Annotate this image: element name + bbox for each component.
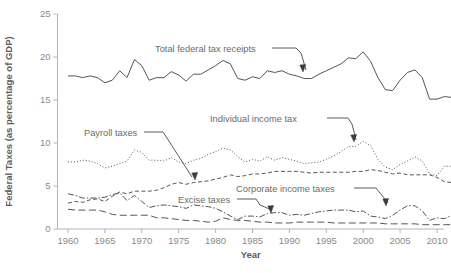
x-tick-label: 1980: [205, 235, 226, 246]
annotation-label: Total federal tax receipts: [155, 44, 256, 54]
x-tick-label: 1975: [168, 235, 189, 246]
annotation-leader: [354, 188, 388, 203]
chart-container: 0510152025196019651970197519801985199019…: [0, 0, 451, 273]
x-tick-label: 1985: [242, 235, 263, 246]
annotation-label: Individual income tax: [210, 114, 297, 124]
y-tick-label: 10: [40, 137, 51, 148]
x-tick-label: 2000: [353, 235, 374, 246]
annotation-label: Excise taxes: [178, 195, 231, 205]
x-tick-label: 1995: [316, 235, 337, 246]
annotation-arrowhead: [300, 65, 306, 72]
annotations-group: Total federal tax receiptsIndividual inc…: [84, 44, 389, 213]
y-tick-label: 20: [40, 51, 51, 62]
y-tick-label: 25: [40, 8, 51, 19]
x-tick-label: 2005: [390, 235, 411, 246]
y-tick-label: 15: [40, 94, 51, 105]
annotation-label: Payroll taxes: [84, 128, 138, 138]
series-line: [68, 52, 451, 99]
x-tick-label: 2010: [426, 235, 447, 246]
y-tick-label: 0: [45, 223, 50, 234]
annotation-leader: [144, 132, 192, 177]
x-tick-label: 1965: [94, 235, 115, 246]
x-axis-title: Year: [241, 249, 261, 260]
y-axis-title: Federal Taxes (as percentage of GDP): [3, 36, 14, 206]
annotation-arrowhead: [268, 206, 274, 213]
annotation-leader: [237, 199, 272, 210]
x-tick-label: 1960: [57, 235, 78, 246]
series-line: [68, 193, 451, 221]
series-group: [68, 52, 451, 225]
x-tick-label: 1990: [279, 235, 300, 246]
annotation-arrowhead: [192, 173, 198, 180]
series-line: [68, 141, 451, 175]
chart-canvas: 0510152025196019651970197519801985199019…: [0, 0, 451, 273]
x-tick-label: 1970: [131, 235, 152, 246]
annotation-label: Corporate income taxes: [236, 184, 335, 194]
y-tick-label: 5: [45, 180, 50, 191]
